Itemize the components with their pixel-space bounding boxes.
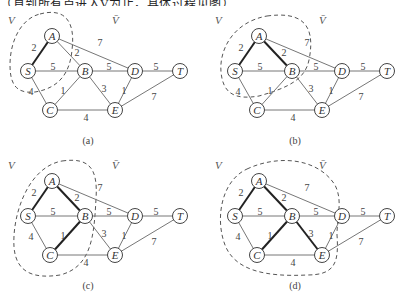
edge-weight: 1 [61,85,66,96]
edge-weight: 7 [359,91,364,102]
node-C: C [43,103,58,118]
graph-figure: VV̄227555413174ASBDTCE(a)VV̄227555413174… [0,0,414,307]
edge-weight: 5 [107,206,112,217]
svg-text:B: B [289,65,296,77]
panel-d: VV̄227555413174ASBDTCE(d) [215,159,395,292]
panel-caption: (d) [289,280,301,292]
svg-text:A: A [48,30,56,42]
svg-text:T: T [384,210,391,222]
node-E: E [108,103,123,118]
set-v-label: V [215,159,223,171]
svg-text:T: T [177,65,184,77]
edge-weight: 5 [361,206,366,217]
svg-text:C: C [46,249,54,261]
node-C: C [250,103,265,118]
node-S: S [228,64,243,79]
edge-weight: 1 [122,230,127,241]
edge-weight: 1 [329,230,334,241]
edge-weight: 5 [361,61,366,72]
edge-weight: 2 [32,187,37,198]
edge-weight: 1 [329,85,334,96]
node-B: B [78,209,93,224]
node-B: B [285,64,300,79]
node-A: A [45,174,60,189]
edge-weight: 7 [305,182,310,193]
set-vbar-label: V̄ [112,14,120,26]
set-vbar-label: V̄ [319,14,327,26]
node-B: B [78,64,93,79]
edge-weight: 4 [236,231,241,242]
node-T: T [173,209,188,224]
edge-A-D [259,181,342,216]
edge-weight: 3 [309,83,314,94]
svg-text:S: S [232,65,238,77]
edge-weight: 5 [314,206,319,217]
svg-text:S: S [25,210,31,222]
node-S: S [21,209,36,224]
edge-weight: 5 [258,61,263,72]
edge-weight: 4 [84,112,89,123]
edge-weight: 7 [152,236,157,247]
edge-weight: 3 [102,83,107,94]
svg-text:B: B [82,210,89,222]
edge-weight: 4 [291,257,296,268]
cut-boundary [221,15,311,97]
node-D: D [335,64,350,79]
edge-weight: 3 [309,228,314,239]
edge-weight: 2 [282,192,287,203]
edge-weight: 5 [314,61,319,72]
edge-weight: 2 [75,192,80,203]
svg-text:A: A [48,175,56,187]
node-E: E [108,248,123,263]
edge-weight: 5 [154,61,159,72]
node-S: S [228,209,243,224]
edge-weight: 2 [282,47,287,58]
svg-text:S: S [25,65,31,77]
edge-weight: 1 [122,85,127,96]
edge-weight: 2 [239,42,244,53]
edge-weight: 7 [305,37,310,48]
edge-weight: 1 [61,230,66,241]
svg-text:D: D [337,210,346,222]
edge-weight: 5 [51,61,56,72]
set-vbar-label: V̄ [319,159,327,171]
node-T: T [380,64,395,79]
set-v-label: V [8,14,16,26]
node-A: A [45,29,60,44]
node-E: E [315,248,330,263]
svg-text:T: T [177,210,184,222]
node-T: T [380,209,395,224]
node-C: C [43,248,58,263]
edge-weight: 7 [98,37,103,48]
edge-weight: 2 [75,47,80,58]
node-A: A [252,174,267,189]
node-D: D [128,64,143,79]
node-B: B [285,209,300,224]
svg-text:T: T [384,65,391,77]
edge-weight: 7 [98,182,103,193]
set-v-label: V [215,14,223,26]
edge-A-D [52,181,135,216]
panel-caption: (a) [82,135,93,147]
edge-weight: 2 [32,42,37,53]
panel-a: VV̄227555413174ASBDTCE(a) [8,12,188,147]
svg-text:D: D [337,65,346,77]
edge-weight: 5 [51,206,56,217]
edge-weight: 2 [239,187,244,198]
node-D: D [128,209,143,224]
panel-caption: (c) [82,280,93,292]
edge-weight: 4 [291,112,296,123]
svg-text:D: D [130,210,139,222]
node-C: C [250,248,265,263]
svg-text:C: C [46,104,54,116]
panel-caption: (b) [289,135,301,147]
edge-weight: 5 [107,61,112,72]
node-E: E [315,103,330,118]
svg-text:S: S [232,210,238,222]
edge-weight: 7 [152,91,157,102]
svg-text:E: E [111,249,119,261]
svg-text:E: E [111,104,119,116]
svg-text:A: A [255,30,263,42]
edge-weight: 4 [29,86,34,97]
edge-A-D [52,36,135,71]
